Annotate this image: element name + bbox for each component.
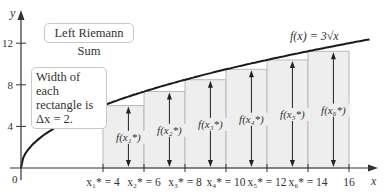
x-tick-label: x₆* = 14 (288, 176, 327, 188)
y-axis-label: y (9, 6, 16, 20)
y-tick-label: 4 (8, 120, 14, 132)
bar-height-label: f(x₁*) (116, 131, 141, 144)
annotation-line-1: Width of each (36, 70, 102, 98)
annotation-line-2: rectangle is (36, 98, 102, 112)
function-label: f(x) = 3√x (290, 29, 339, 43)
bar-height-label: f(x₄*) (239, 113, 264, 126)
x-tick-label: x₅* = 12 (247, 176, 286, 188)
x-tick-label: x₁* = 4 (86, 176, 120, 188)
x-tick-label: x₂* = 6 (127, 176, 161, 188)
x-axis-label: x (370, 174, 377, 188)
y-axis-arrow-icon (18, 10, 25, 20)
origin-label: 0 (12, 173, 18, 185)
x-tick-label: x₃* = 8 (168, 176, 202, 188)
x-tick-label: x₄* = 10 (206, 176, 245, 188)
x-tick-labels: x₁* = 4x₂* = 6x₃* = 8x₄* = 10x₅* = 12x₆*… (86, 176, 355, 188)
bar-height-label: f(x₂*) (157, 124, 182, 137)
bar-height-label: f(x₆*) (321, 104, 346, 117)
title-box: Left Riemann Sum (44, 23, 134, 43)
x-axis-arrow-icon (368, 165, 378, 172)
x-tick-label: 16 (343, 176, 355, 188)
y-tick-label: 12 (2, 37, 13, 49)
bar-height-label: f(x₃*) (198, 118, 223, 131)
y-tick-label: 8 (8, 79, 14, 91)
bar-height-label: f(x₅*) (280, 108, 305, 121)
y-tick-labels: 4812 (2, 37, 14, 132)
annotation-box: Width of each rectangle is Δx = 2. (31, 67, 107, 129)
annotation-line-3: Δx = 2. (36, 112, 102, 126)
